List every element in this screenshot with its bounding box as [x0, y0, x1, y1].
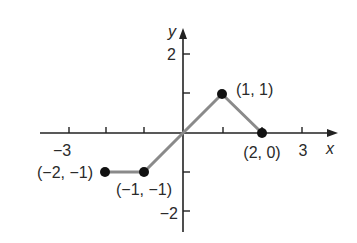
y-axis-label: y — [167, 23, 177, 40]
function-graph: −3 3 2 −2 x y (−2, −1) (−1, −1) (1, 1) (… — [0, 0, 357, 243]
x-tick-label-neg3: −3 — [53, 142, 71, 159]
y-axis-arrow-icon — [179, 28, 187, 39]
point-label-neg1-neg1: (−1, −1) — [116, 181, 172, 198]
point-label-2-0: (2, 0) — [243, 144, 280, 161]
point-label-neg2-neg1: (−2, −1) — [37, 164, 93, 181]
y-tick-label-neg2: −2 — [160, 205, 178, 222]
point-1-1 — [217, 89, 227, 99]
x-axis-label: x — [325, 140, 335, 157]
point-neg2-neg1 — [100, 167, 110, 177]
x-tick-label-3: 3 — [299, 142, 308, 159]
x-axis-arrow-icon — [327, 129, 338, 137]
y-tick-label-2: 2 — [167, 46, 176, 63]
point-label-1-1: (1, 1) — [236, 81, 273, 98]
point-neg1-neg1 — [139, 167, 149, 177]
point-2-0 — [257, 128, 267, 138]
